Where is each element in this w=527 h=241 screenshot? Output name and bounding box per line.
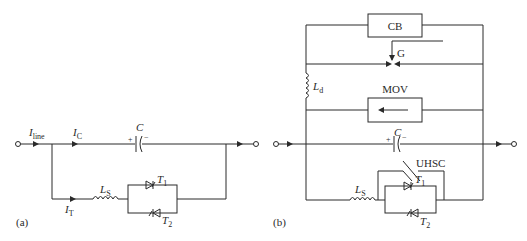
label-ic: IC [72, 126, 82, 141]
label-g: G [397, 47, 405, 59]
right-terminal-a [254, 142, 259, 147]
mov-arrow [378, 107, 384, 113]
arrow-out-b [496, 141, 502, 147]
panel-label-b: (b) [273, 216, 286, 229]
label-uhsc: UHSC [416, 157, 445, 169]
label-c-b: C [394, 126, 402, 138]
label-cap-minus-b: − [402, 133, 407, 142]
label-t1-a: T1 [157, 173, 167, 188]
capacitor-b [394, 136, 400, 152]
arrow-in-b [287, 141, 293, 147]
label-cap-plus-a: + [128, 135, 133, 144]
label-ld: Ld [312, 80, 323, 95]
figure-b: CB G Ld MOV C + − UHSC LS T1 T2 (b) [273, 14, 517, 230]
inductor-ld [306, 73, 309, 98]
label-iline: Iline [28, 126, 45, 141]
arrow-ic [72, 141, 78, 147]
left-terminal-b [274, 142, 279, 147]
label-cap-minus-a: − [144, 133, 149, 142]
thyristor-pair-a [128, 181, 177, 217]
panel-label-a: (a) [16, 216, 29, 229]
label-ls-a: LS [99, 183, 111, 198]
left-terminal-a [16, 142, 21, 147]
thyristor-pair-b [385, 182, 436, 217]
label-t2-a: T2 [162, 214, 172, 229]
arrow-iline [33, 141, 39, 147]
trigger-arrow-g [389, 55, 395, 61]
spark-gap-left [386, 61, 392, 67]
label-cb: CB [388, 20, 403, 32]
capacitor-a [136, 136, 142, 152]
right-terminal-b [512, 142, 517, 147]
label-c-a: C [136, 121, 144, 133]
arrow-it [70, 196, 76, 202]
label-mov: MOV [382, 83, 408, 95]
figure-a: Iline IC C + − IT LS T1 T2 (a) [16, 121, 259, 229]
circuit-diagram: Iline IC C + − IT LS T1 T2 (a) [0, 0, 527, 241]
label-ls-b: LS [354, 183, 366, 198]
arrow-out-a [237, 141, 243, 147]
label-it: IT [64, 203, 74, 218]
label-t2-b: T2 [420, 215, 430, 230]
spark-gap-right [394, 61, 400, 67]
label-cap-plus-b: + [386, 135, 391, 144]
